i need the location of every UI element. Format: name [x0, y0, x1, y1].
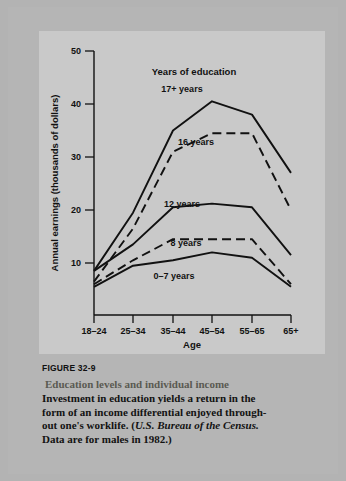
x-tick-label-1: 25–34 [120, 326, 145, 336]
chart-series-labels: 17+ years16 years12 years8 years0–7 year… [153, 84, 214, 281]
x-axis-title: Age [183, 339, 201, 350]
y-tick-label-50: 50 [71, 46, 81, 56]
legend-title: Years of education [152, 66, 237, 77]
series-label-12-years: 12 years [164, 199, 200, 209]
line-chart: 50 40 30 20 10 Annual earnings (thousand… [39, 31, 325, 354]
series-line-0-7-years [94, 252, 291, 286]
x-tick-label-0: 18–24 [81, 326, 106, 336]
series-label-17+-years: 17+ years [161, 84, 202, 94]
x-tick-label-3: 45–54 [199, 326, 224, 336]
caption-line-2: form of an income differential enjoyed t… [42, 406, 266, 418]
caption-source: U.S. Bureau of the Census. [135, 419, 259, 431]
figure-title: Education levels and individual income [45, 378, 325, 390]
series-label-0-7-years: 0–7 years [153, 271, 194, 281]
y-tick-label-40: 40 [71, 99, 81, 109]
series-label-8-years: 8 years [170, 238, 201, 248]
figure-number: FIGURE 32-9 [42, 363, 325, 373]
chart-panel: 50 40 30 20 10 Annual earnings (thousand… [39, 31, 325, 354]
figure-caption: FIGURE 32-9 Education levels and individ… [39, 363, 325, 446]
page-sheet: 50 40 30 20 10 Annual earnings (thousand… [8, 7, 338, 474]
caption-line-4: Data are for males in 1982.) [42, 433, 172, 445]
x-tick-label-5: 65+ [283, 326, 298, 336]
figure-page: 50 40 30 20 10 Annual earnings (thousand… [0, 0, 346, 481]
chart-series-layer [94, 101, 291, 286]
caption-line-1: Investment in education yields a return … [42, 392, 255, 404]
caption-line-3-pre: out one's worklife. ( [42, 419, 135, 431]
series-label-16-years: 16 years [178, 137, 214, 147]
y-tick-label-30: 30 [71, 152, 81, 162]
figure-body: Investment in education yields a return … [42, 392, 325, 446]
x-tick-label-4: 55–65 [239, 326, 264, 336]
y-axis-title: Annual earnings (thousands of dollars) [49, 95, 60, 272]
x-tick-label-2: 35–44 [160, 326, 185, 336]
y-tick-label-20: 20 [71, 205, 81, 215]
y-tick-label-10: 10 [71, 258, 81, 268]
